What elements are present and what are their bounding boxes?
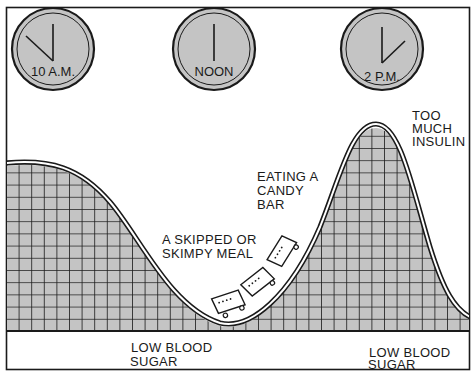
annotation-line: SUGAR bbox=[368, 358, 416, 371]
clock-label-noon: NOON bbox=[184, 64, 244, 79]
annotation-line: A SKIPPED OR bbox=[162, 233, 257, 246]
clock-label-10am: 10 A.M. bbox=[23, 64, 83, 79]
annotation-line: CANDY bbox=[257, 184, 304, 197]
annotation-line: EATING A bbox=[257, 170, 318, 183]
diagram-canvas bbox=[0, 0, 474, 376]
annotation-line: SUGAR bbox=[130, 355, 178, 368]
blood-sugar-diagram: 10 A.M. NOON 2 P.M. TOO MUCH INSULIN EAT… bbox=[0, 0, 474, 376]
annotation-line: INSULIN bbox=[412, 135, 465, 148]
clock-label-2pm: 2 P.M. bbox=[352, 69, 412, 84]
annotation-line: BAR bbox=[257, 198, 285, 211]
annotation-line: SKIMPY MEAL bbox=[162, 247, 253, 260]
annotation-line: LOW BLOOD bbox=[131, 341, 212, 354]
